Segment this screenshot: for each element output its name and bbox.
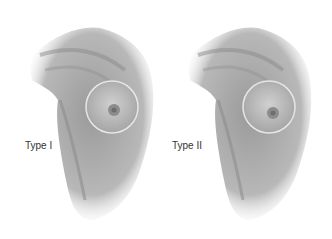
anatomical-illustration <box>166 0 332 239</box>
illustration-panel-type-1: Type I <box>0 0 166 239</box>
illustration-panel-type-2: Type II <box>166 0 332 239</box>
type-1-label: Type I <box>25 140 52 151</box>
anatomical-illustration <box>0 0 166 239</box>
type-2-label: Type II <box>172 140 202 151</box>
